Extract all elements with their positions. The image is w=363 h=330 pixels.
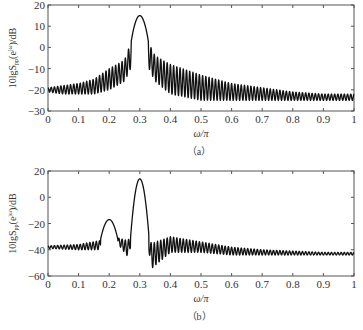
y-axis-label: 10lgSpp(ejω)/dB — [7, 193, 19, 254]
plot-frame — [48, 171, 354, 276]
figure-caption: （b） — [187, 311, 212, 322]
y-tick-label: 20 — [34, 165, 46, 177]
y-axis-label: 10lgSpp(ejω)/dB — [7, 27, 19, 88]
y-tick-label: −20 — [28, 218, 46, 230]
chart-panel-b: 00.10.20.30.40.50.60.70.80.91200−20−40−6… — [0, 165, 363, 330]
y-tick-label: −30 — [28, 105, 46, 117]
x-tick-label: 0.1 — [72, 278, 86, 290]
x-tick-label: 0 — [45, 113, 51, 125]
x-tick-label: 0.1 — [72, 113, 86, 125]
y-tick-label: 0 — [40, 191, 46, 203]
chart-panel-a: 00.10.20.30.40.50.60.70.80.9120100−10−20… — [0, 0, 363, 165]
x-tick-label: 0.5 — [194, 113, 208, 125]
x-tick-label: 1 — [351, 113, 357, 125]
spectrum-line — [48, 16, 354, 101]
x-tick-label: 0.9 — [317, 278, 331, 290]
x-axis-label: ω/π — [194, 293, 210, 304]
y-tick-label: −20 — [28, 84, 46, 96]
chart-b-svg: 00.10.20.30.40.50.60.70.80.91200−20−40−6… — [0, 165, 363, 330]
chart-a-svg: 00.10.20.30.40.50.60.70.80.9120100−10−20… — [0, 0, 363, 165]
x-tick-label: 0.3 — [133, 113, 147, 125]
y-tick-label: −40 — [28, 244, 46, 256]
x-tick-label: 0.5 — [194, 278, 208, 290]
x-tick-label: 0.4 — [164, 113, 178, 125]
x-axis-label: ω/π — [194, 128, 210, 139]
x-tick-label: 0.2 — [102, 113, 116, 125]
x-tick-label: 0.7 — [255, 278, 269, 290]
x-tick-label: 0.8 — [286, 278, 300, 290]
x-tick-label: 0.4 — [164, 278, 178, 290]
y-tick-label: 0 — [40, 41, 46, 53]
x-tick-label: 0.2 — [102, 278, 116, 290]
figure-caption: （a） — [187, 146, 211, 157]
x-tick-label: 0 — [45, 278, 51, 290]
x-tick-label: 0.6 — [225, 113, 239, 125]
x-axis: 00.10.20.30.40.50.60.70.80.91 — [45, 5, 357, 125]
x-tick-label: 0.7 — [255, 113, 269, 125]
y-axis: 200−20−40−60 — [28, 165, 354, 282]
x-tick-label: 0.3 — [133, 278, 147, 290]
x-tick-label: 0.8 — [286, 113, 300, 125]
y-tick-label: 20 — [34, 0, 46, 11]
y-tick-label: −60 — [28, 270, 46, 282]
y-tick-label: 10 — [34, 20, 46, 32]
y-tick-label: −10 — [28, 63, 46, 75]
x-tick-label: 1 — [351, 278, 357, 290]
x-axis: 00.10.20.30.40.50.60.70.80.91 — [45, 171, 357, 290]
spectrum-line — [48, 179, 354, 268]
x-tick-label: 0.9 — [317, 113, 331, 125]
x-tick-label: 0.6 — [225, 278, 239, 290]
